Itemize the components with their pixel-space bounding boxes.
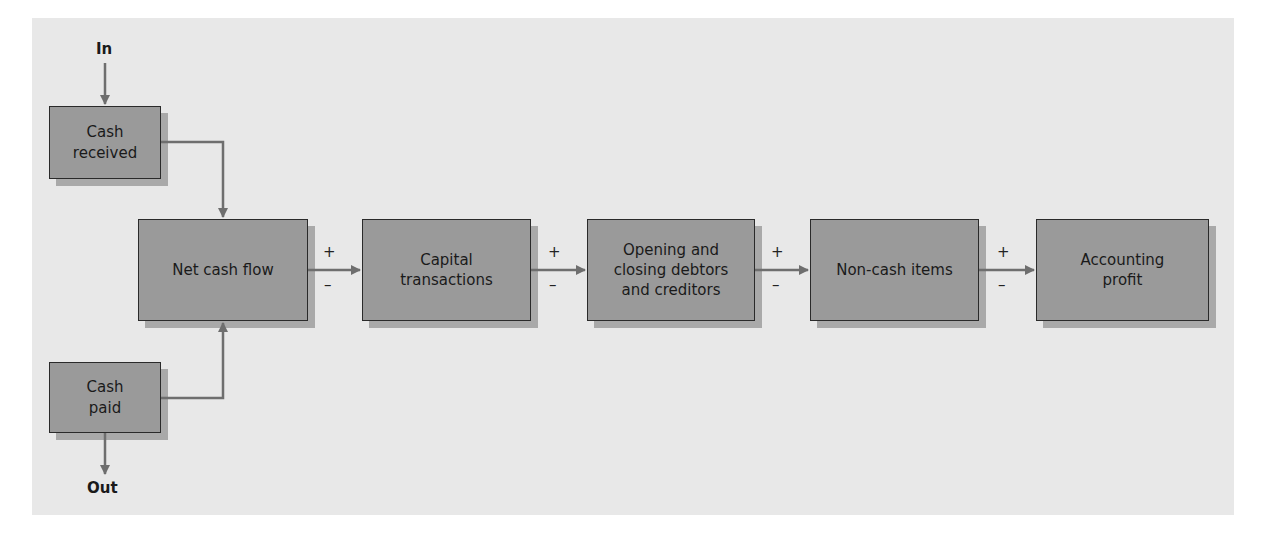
minus-sign: –: [549, 276, 557, 294]
minus-sign: –: [324, 276, 332, 294]
box-label: Cash paid: [87, 377, 124, 418]
box-capital-transactions: Capital transactions: [362, 219, 531, 321]
box-label: Cash received: [73, 122, 137, 163]
box-debtors-creditors: Opening and closing debtors and creditor…: [587, 219, 755, 321]
box-non-cash-items: Non-cash items: [810, 219, 979, 321]
box-label: Capital transactions: [400, 250, 493, 291]
box-net-cash-flow: Net cash flow: [138, 219, 308, 321]
box-label: Net cash flow: [172, 260, 274, 280]
arrow-received-to-net: [161, 142, 223, 217]
plus-sign: +: [771, 243, 784, 261]
arrow-paid-to-net: [161, 323, 223, 398]
box-label: Non-cash items: [836, 260, 953, 280]
box-accounting-profit: Accounting profit: [1036, 219, 1209, 321]
box-label: Opening and closing debtors and creditor…: [614, 240, 729, 301]
minus-sign: –: [998, 276, 1006, 294]
box-cash-paid: Cash paid: [49, 362, 161, 433]
box-cash-received: Cash received: [49, 106, 161, 179]
plus-sign: +: [323, 243, 336, 261]
input-label: In: [96, 40, 112, 58]
plus-sign: +: [548, 243, 561, 261]
minus-sign: –: [772, 276, 780, 294]
plus-sign: +: [997, 243, 1010, 261]
output-label: Out: [87, 479, 118, 497]
box-label: Accounting profit: [1081, 250, 1165, 291]
